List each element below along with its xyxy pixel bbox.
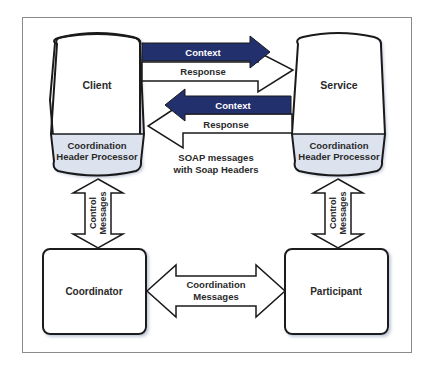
top-response-label: Response	[180, 66, 225, 77]
control-left-line1: Control	[88, 197, 98, 229]
coordinator-label: Coordinator	[65, 286, 122, 297]
soap-annotation-line1: SOAP messages	[178, 152, 253, 163]
participant-label: Participant	[310, 286, 362, 297]
bottom-response-label: Response	[203, 119, 248, 130]
bottom-context-label: Context	[215, 100, 251, 111]
control-right-line1: Control	[328, 197, 338, 229]
control-right-line2: Messages	[338, 191, 348, 234]
soap-annotation-line2: with Soap Headers	[173, 164, 259, 175]
service-processor-line2: Header Processor	[298, 151, 380, 162]
coordination-line1: Coordination	[186, 279, 245, 290]
top-context-label: Context	[185, 47, 221, 58]
service-label: Service	[320, 79, 358, 91]
diagram-canvas: Client Coordination Header Processor Ser…	[0, 0, 431, 365]
client-label: Client	[82, 79, 112, 91]
client-processor-line2: Header Processor	[56, 151, 138, 162]
client-processor-line1: Coordination	[67, 140, 126, 151]
control-left-line2: Messages	[98, 191, 108, 234]
coordination-line2: Messages	[193, 291, 238, 302]
service-processor-line1: Coordination	[309, 140, 368, 151]
